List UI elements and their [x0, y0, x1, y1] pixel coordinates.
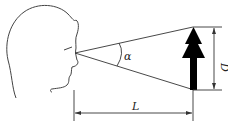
distance-label: L — [131, 100, 139, 113]
upper-sight-ray — [75, 27, 193, 53]
l-arrowhead-left — [75, 111, 81, 115]
head-profile — [7, 5, 79, 98]
d-arrowhead-bottom — [212, 83, 216, 89]
size-label: D — [218, 62, 228, 72]
angle-label: α — [124, 50, 132, 63]
l-arrowhead-right — [186, 111, 192, 115]
d-arrowhead-top — [212, 28, 216, 34]
lower-sight-ray — [75, 53, 191, 89]
object-arrow — [182, 27, 205, 90]
angle-arc — [117, 43, 122, 66]
eye-mark — [64, 47, 72, 50]
visual-angle-diagram: α D L — [0, 0, 228, 136]
